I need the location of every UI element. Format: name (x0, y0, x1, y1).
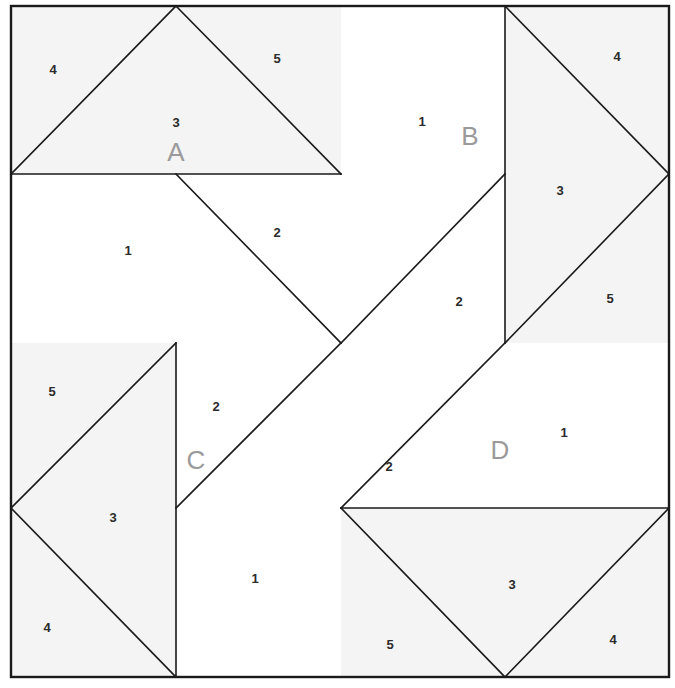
dissection-svg: 12345A12345B12345C12345D (0, 0, 675, 688)
piece-number-a-4: 4 (49, 62, 57, 77)
piece-number-d-1: 1 (560, 425, 567, 440)
piece-number-b-4: 4 (613, 49, 621, 64)
white-region-1 (11, 174, 341, 343)
piece-number-c-2: 2 (212, 399, 219, 414)
piece-number-b-3: 3 (556, 183, 563, 198)
piece-number-b-2: 2 (455, 294, 462, 309)
white-region-3 (176, 343, 341, 677)
piece-number-c-4: 4 (43, 620, 51, 635)
shaded-region-3 (11, 343, 176, 677)
piece-number-d-5: 5 (386, 637, 393, 652)
piece-number-c-1: 1 (251, 571, 258, 586)
piece-number-b-1: 1 (418, 114, 425, 129)
piece-number-a-5: 5 (273, 51, 280, 66)
dissection-figure: 12345A12345B12345C12345D (0, 0, 675, 688)
quadrant-label-b: B (461, 121, 478, 151)
piece-number-b-5: 5 (606, 291, 613, 306)
piece-number-a-3: 3 (172, 115, 179, 130)
quadrant-label-a: A (167, 137, 185, 167)
quadrant-label-d: D (491, 435, 510, 465)
piece-number-a-1: 1 (124, 243, 131, 258)
piece-number-d-2: 2 (385, 459, 392, 474)
piece-number-c-5: 5 (48, 384, 55, 399)
piece-number-d-4: 4 (609, 632, 617, 647)
piece-number-d-3: 3 (508, 577, 515, 592)
piece-number-c-3: 3 (109, 510, 116, 525)
white-region-4 (341, 343, 669, 508)
white-region-2 (341, 6, 505, 343)
quadrant-label-c: C (187, 445, 206, 475)
piece-number-a-2: 2 (273, 225, 280, 240)
